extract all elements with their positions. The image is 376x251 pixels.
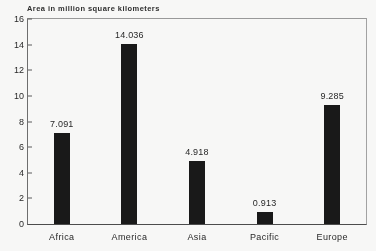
y-axis-tick-mark [28, 121, 32, 122]
y-axis-tick-mark [28, 70, 32, 71]
y-axis-tick-label: 12 [14, 65, 24, 75]
x-axis-category-label: Africa [49, 232, 74, 242]
y-axis-tick-label: 4 [19, 168, 24, 178]
bar-group[interactable]: 4.918 [163, 19, 231, 224]
bar-group[interactable]: 14.036 [96, 19, 164, 224]
y-axis-tick-mark [28, 198, 32, 199]
x-axis-category-label: Pacific [250, 232, 279, 242]
y-axis: 1614121086420 [0, 0, 24, 251]
bar-pacific[interactable] [257, 212, 273, 224]
y-axis-tick-label: 8 [19, 117, 24, 127]
bar-value-label: 9.285 [320, 91, 344, 101]
bar-asia[interactable] [189, 161, 205, 224]
bar-africa[interactable] [54, 133, 70, 224]
chart-screenshot: Area in million square kilometers 161412… [0, 0, 376, 251]
bar-value-label: 0.913 [253, 198, 277, 208]
bar-america[interactable] [121, 44, 137, 224]
y-axis-tick-label: 0 [19, 219, 24, 229]
y-axis-tick-mark [28, 95, 32, 96]
y-axis-tick-mark [28, 44, 32, 45]
x-axis-category-label: Asia [187, 232, 206, 242]
y-axis-tick-mark [28, 172, 32, 173]
bar-group[interactable]: 9.285 [298, 19, 366, 224]
bar-value-label: 14.036 [115, 30, 144, 40]
bar-europe[interactable] [324, 105, 340, 224]
x-axis-category-label: America [111, 232, 147, 242]
bar-value-label: 7.091 [50, 119, 74, 129]
y-axis-tick-label: 2 [19, 193, 24, 203]
y-axis-tick-mark [28, 147, 32, 148]
x-axis-category-label: Europe [316, 232, 347, 242]
y-axis-tick-label: 14 [14, 40, 24, 50]
y-axis-tick-label: 6 [19, 142, 24, 152]
bar-group[interactable]: 0.913 [231, 19, 299, 224]
bars-layer: 7.09114.0364.9180.9139.285 [28, 19, 366, 224]
chart-title: Area in million square kilometers [27, 4, 160, 13]
y-axis-tick-label: 10 [14, 91, 24, 101]
bar-value-label: 4.918 [185, 147, 209, 157]
y-axis-tick-label: 16 [14, 14, 24, 24]
bar-group[interactable]: 7.091 [28, 19, 96, 224]
y-axis-tick-mark [28, 19, 32, 20]
